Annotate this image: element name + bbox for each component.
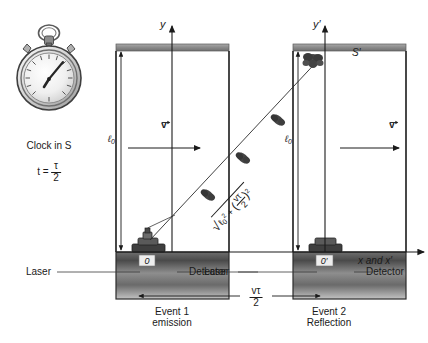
stopwatch-icon (17, 25, 81, 110)
clock-time-denominator: 2 (51, 173, 61, 184)
velocity-vector-left: v (161, 120, 166, 131)
right-mirror-bar (293, 44, 406, 51)
right-origin-label: 0′ (321, 256, 328, 266)
vector-arrow-overbar (389, 120, 398, 125)
event1-label: Event 1 emission (152, 306, 191, 328)
y-axis-right-label: y′ (313, 18, 321, 30)
right-laser-label: Laser (204, 266, 229, 277)
left-apparatus (57, 44, 258, 299)
x-axis-label: x and x′ (358, 255, 392, 266)
left-height-label: ℓ0 (108, 134, 115, 146)
diagram-canvas (0, 0, 428, 343)
light-pulse-marker (199, 187, 216, 203)
separation-label: vτ 2 (250, 286, 263, 308)
light-pulse-markers (199, 53, 323, 203)
light-pulse-burst (303, 53, 324, 68)
separation-numerator: vτ (250, 286, 263, 298)
vector-arrow-overbar (161, 120, 170, 125)
velocity-vector-right: v (389, 120, 394, 131)
left-laser-label: Laser (26, 266, 51, 277)
clock-time-numerator: τ (51, 161, 61, 173)
left-origin-label: 0 (144, 256, 149, 266)
clock-time-label: t = τ 2 (37, 161, 61, 183)
event2-label: Event 2 Reflection (307, 306, 351, 328)
frame-prime-label: S′ (352, 47, 361, 58)
physics-diagram-figure: Clock in S t = τ 2 y y′ x and x′ S′ ℓ0 ℓ… (0, 0, 428, 343)
right-height-label: ℓ0 (285, 134, 292, 146)
light-pulse-marker (269, 112, 286, 128)
right-detector-label: Detector (366, 266, 404, 277)
clock-caption: Clock in S (26, 140, 71, 151)
separation-denominator: 2 (250, 298, 263, 309)
light-pulse-marker (234, 150, 251, 166)
y-axis-left-label: y (160, 18, 166, 30)
